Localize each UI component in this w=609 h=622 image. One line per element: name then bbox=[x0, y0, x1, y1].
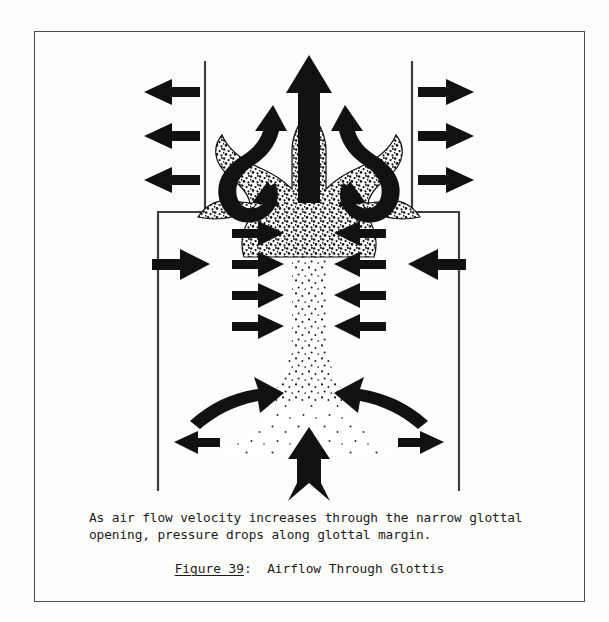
airflow-plume-neck bbox=[292, 197, 326, 255]
outward-arrow-right-3 bbox=[418, 167, 474, 193]
figure-title: Airflow Through Glottis bbox=[267, 561, 444, 576]
outward-arrow-left-2 bbox=[144, 123, 200, 149]
figure-number-label: Figure 39 bbox=[175, 561, 244, 576]
outward-arrow-right-2 bbox=[418, 123, 474, 149]
outward-arrows-right bbox=[418, 79, 474, 193]
outward-arrows-left bbox=[144, 79, 200, 193]
inward-arrow-right-3 bbox=[334, 283, 386, 308]
inward-arrow-left-3 bbox=[232, 283, 284, 308]
inward-arrow-left-4 bbox=[232, 314, 284, 339]
outward-arrow-left-1 bbox=[144, 79, 200, 105]
lower-outward-arrow-right bbox=[398, 431, 444, 454]
inward-arrow-right-4 bbox=[334, 314, 386, 339]
airflow-diagram-svg bbox=[34, 31, 585, 501]
outward-arrow-left-3 bbox=[144, 167, 200, 193]
wall-pressure-arrow-right bbox=[408, 249, 466, 280]
lower-outward-arrow-left bbox=[174, 431, 220, 454]
caption-description: As air flow velocity increases through t… bbox=[34, 509, 585, 543]
figure-caption-block: As air flow velocity increases through t… bbox=[34, 501, 585, 602]
figure-illustration bbox=[34, 31, 585, 501]
caption-figure-line: Figure 39: Airflow Through Glottis bbox=[34, 560, 585, 577]
wall-pressure-arrow-left bbox=[152, 249, 210, 280]
figure-separator: : bbox=[244, 561, 267, 576]
outward-arrow-right-1 bbox=[418, 79, 474, 105]
